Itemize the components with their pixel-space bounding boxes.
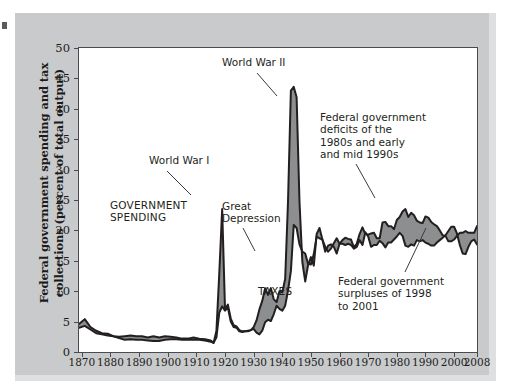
y-tick-label: 50 [44, 41, 70, 55]
x-tick-label: 1990 [409, 356, 441, 368]
x-tick-mark [168, 353, 169, 357]
x-tick-label: 1930 [238, 356, 270, 368]
x-tick-label: 1900 [152, 356, 184, 368]
y-tick-label: 25 [44, 193, 70, 207]
y-tick-label: 30 [44, 163, 70, 177]
x-tick-mark [196, 353, 197, 357]
x-tick-label: 1940 [266, 356, 298, 368]
x-tick-label: 1960 [324, 356, 356, 368]
x-tick-mark [282, 353, 283, 357]
panel-shadow-right [489, 13, 496, 381]
x-tick-label: 1880 [94, 356, 126, 368]
x-tick-mark [477, 353, 478, 357]
x-tick-label: 1980 [381, 356, 413, 368]
x-tick-mark [225, 353, 226, 357]
annotation-deficits: Federal government deficits of the 1980s… [320, 111, 426, 161]
x-tick-label: 1950 [295, 356, 327, 368]
x-tick-mark [368, 353, 369, 357]
x-tick-mark [454, 353, 455, 357]
y-tick-label: 40 [44, 102, 70, 116]
y-tick-label: 35 [44, 132, 70, 146]
x-tick-label: 1970 [352, 356, 384, 368]
chart-figure: Federal government spending and tax coll… [0, 0, 515, 391]
annotation-world-war-2: World War II [222, 56, 285, 68]
x-tick-mark [82, 353, 83, 357]
figure-panel: Federal government spending and tax coll… [15, 13, 489, 375]
annotation-surpluses: Federal government surpluses of 1998 to … [338, 275, 444, 312]
x-tick-mark [110, 353, 111, 357]
x-tick-mark [311, 353, 312, 357]
x-tick-label: 1870 [66, 356, 98, 368]
x-tick-mark [254, 353, 255, 357]
y-tick-label: 10 [44, 284, 70, 298]
x-tick-mark [397, 353, 398, 357]
annotation-world-war-1: World War I [149, 154, 209, 166]
x-tick-mark [139, 353, 140, 357]
x-tick-label: 1890 [123, 356, 155, 368]
annotation-government-spending: GOVERNMENT SPENDING [110, 199, 187, 224]
y-tick-label: 20 [44, 223, 70, 237]
x-tick-label: 1910 [180, 356, 212, 368]
annotation-great-depression: Great Depression [222, 200, 281, 225]
x-tick-mark [340, 353, 341, 357]
annotation-taxes: TAXES [258, 285, 292, 297]
x-tick-label: 1920 [209, 356, 241, 368]
y-tick-label: 5 [44, 315, 70, 329]
y-tick-label: 15 [44, 254, 70, 268]
panel-shadow-bottom [15, 375, 496, 381]
x-tick-label: 2008 [461, 356, 493, 368]
page-edge-mark [2, 22, 7, 29]
y-tick-label: 45 [44, 71, 70, 85]
